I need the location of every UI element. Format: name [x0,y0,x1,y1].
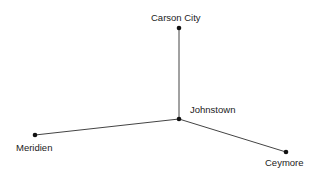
node-ceymore [284,150,289,155]
label-ceymore: Ceymore [265,158,304,168]
node-johnstown [177,117,182,122]
node-meridien [33,133,38,138]
edge-johnstown-meridien [35,119,179,135]
label-johnstown: Johnstown [190,105,235,115]
node-carson-city [177,26,182,31]
label-carson-city: Carson City [151,13,201,23]
label-meridien: Meridien [16,143,52,153]
edge-johnstown-ceymore [179,119,286,152]
